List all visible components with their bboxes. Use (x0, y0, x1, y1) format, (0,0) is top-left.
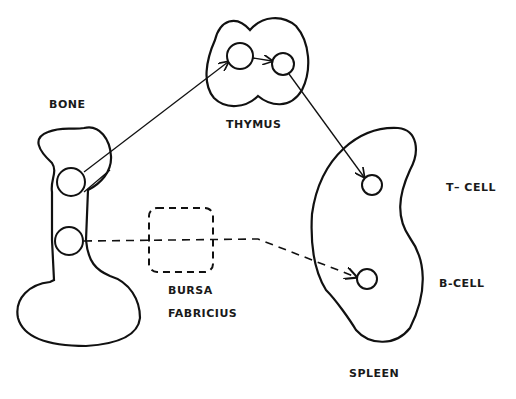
arrow-bone-tail (84, 170, 110, 192)
arrow-thymus-to-spleen (289, 74, 364, 177)
arrow-bone-to-thymus (84, 62, 228, 172)
label-bone: BONE (49, 98, 85, 111)
arrow-thymus-internal (253, 58, 272, 61)
b-cell (357, 269, 377, 289)
thymus-cell-1 (227, 43, 253, 69)
lymphocyte-migration-diagram: BONE THYMUS T– CELL B-CELL BURSA FABRICI… (0, 0, 516, 399)
label-bursa: BURSA (168, 284, 213, 297)
label-t-cell: T– CELL (446, 181, 496, 194)
bone-cell-lower (55, 227, 83, 255)
label-spleen: SPLEEN (349, 367, 399, 380)
thymus-cell-2 (272, 53, 294, 75)
spleen-outline (312, 128, 423, 342)
label-b-cell: B-CELL (439, 277, 485, 290)
diagram-svg (0, 0, 516, 399)
label-fabricius: FABRICIUS (168, 307, 237, 320)
label-thymus: THYMUS (226, 118, 281, 131)
bone-cell-upper (57, 168, 85, 196)
t-cell (362, 175, 382, 195)
